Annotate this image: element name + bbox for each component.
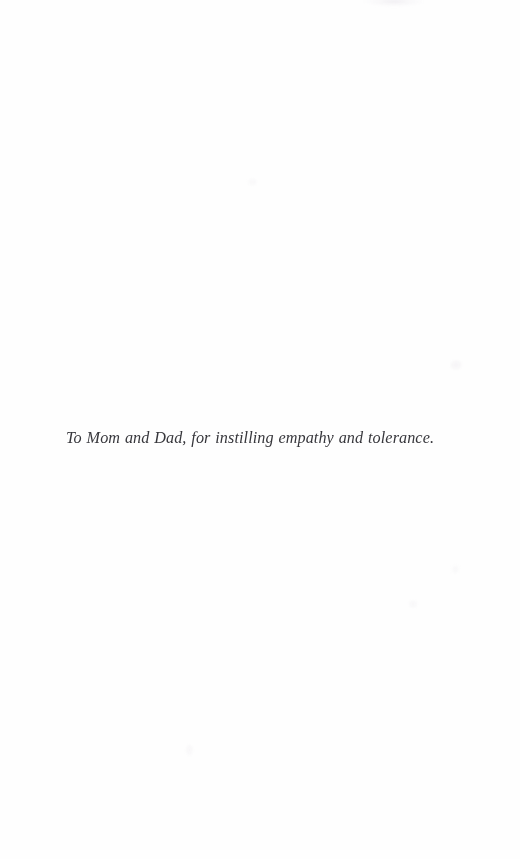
scan-artifact-right-middle	[450, 360, 462, 370]
dedication-text: To Mom and Dad, for instilling empathy a…	[66, 429, 434, 447]
scan-artifact-lower-right	[408, 600, 418, 608]
dedication-page: To Mom and Dad, for instilling empathy a…	[0, 0, 520, 859]
scan-artifact-lower-left	[186, 744, 193, 756]
scan-artifact-right-lower	[452, 565, 459, 574]
dedication-block: To Mom and Dad, for instilling empathy a…	[0, 429, 520, 447]
scan-artifact-upper-middle	[248, 178, 257, 186]
scan-artifact-top	[365, 0, 423, 6]
